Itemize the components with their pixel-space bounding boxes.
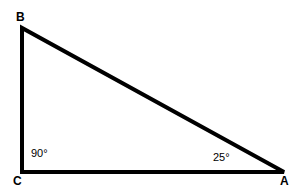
angle-label-c: 90°	[31, 148, 48, 159]
right-triangle-outline	[22, 28, 284, 172]
triangle-shape	[0, 0, 301, 192]
vertex-label-b: B	[16, 11, 25, 23]
angle-label-a: 25°	[213, 152, 230, 163]
geometry-figure: B C A 90° 25°	[0, 0, 301, 192]
vertex-label-a: A	[280, 175, 289, 187]
vertex-label-c: C	[13, 175, 22, 187]
